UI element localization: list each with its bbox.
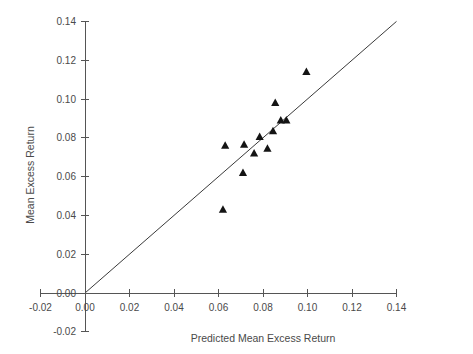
data-point-marker xyxy=(271,99,279,107)
y-tick-label-8: 0.14 xyxy=(57,16,77,27)
y-tick-label-2: 0.02 xyxy=(57,249,77,260)
x-tick-label-8: 0.14 xyxy=(387,302,407,313)
data-point-marker xyxy=(302,68,310,76)
plot-canvas: -0.020.000.020.040.060.080.100.120.14 -0… xyxy=(0,0,473,354)
y-tick-label-5: 0.08 xyxy=(57,132,77,143)
data-point-marker xyxy=(221,141,229,149)
data-point-markers xyxy=(219,68,311,213)
x-tick-label-7: 0.12 xyxy=(342,302,362,313)
x-tick-label-6: 0.10 xyxy=(298,302,318,313)
x-tick-label-1: 0.00 xyxy=(75,302,95,313)
x-tick-label-2: 0.02 xyxy=(120,302,140,313)
data-point-marker xyxy=(263,144,271,152)
scatter-plot-figure: -0.020.000.020.040.060.080.100.120.14 -0… xyxy=(0,0,473,354)
x-tick-label-0: -0.02 xyxy=(29,302,52,313)
reference-line xyxy=(85,21,397,293)
x-tick-label-5: 0.08 xyxy=(253,302,273,313)
y-tick-label-6: 0.10 xyxy=(57,94,77,105)
forty-five-degree-reference-line xyxy=(85,21,397,293)
y-tick-label-0: -0.02 xyxy=(53,326,76,337)
x-axis-title: Predicted Mean Excess Return xyxy=(191,332,336,344)
data-point-marker xyxy=(239,168,247,176)
data-point-marker xyxy=(256,133,264,141)
data-point-marker xyxy=(219,205,227,213)
data-point-marker xyxy=(269,127,277,135)
x-tick-label-3: 0.04 xyxy=(164,302,184,313)
x-tick-label-4: 0.06 xyxy=(209,302,229,313)
y-tick-label-3: 0.04 xyxy=(57,210,77,221)
data-point-marker xyxy=(240,140,248,148)
y-axis-tick-labels: -0.020.000.020.040.060.080.100.120.14 xyxy=(53,16,76,337)
y-tick-label-7: 0.12 xyxy=(57,55,77,66)
x-axis-tick-labels: -0.020.000.020.040.060.080.100.120.14 xyxy=(29,302,407,313)
data-point-marker xyxy=(250,149,258,157)
y-tick-label-4: 0.06 xyxy=(57,171,77,182)
y-tick-label-1: 0.00 xyxy=(57,288,77,299)
y-axis-title: Mean Excess Return xyxy=(24,126,36,224)
